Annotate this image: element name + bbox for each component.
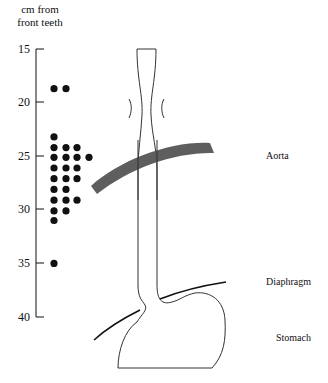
lesion-dot [62, 164, 69, 171]
lesion-dot [73, 144, 80, 151]
esophagus-diagram [0, 0, 328, 383]
lesion-dot [50, 186, 57, 193]
lesion-dot [50, 85, 57, 92]
lesion-dot [50, 175, 57, 182]
lesion-dot [50, 164, 57, 171]
lesion-dot [50, 154, 57, 161]
lesion-dot [73, 164, 80, 171]
lesion-dot [62, 175, 69, 182]
lesion-dot [73, 197, 80, 204]
lesion-dot [85, 154, 92, 161]
label-diaphragm: Diaphragm [266, 276, 311, 287]
lesion-dot [50, 217, 57, 224]
lesion-dot [50, 260, 57, 267]
lesion-dot [62, 186, 69, 193]
lesion-dot [62, 197, 69, 204]
lesion-dot [73, 175, 80, 182]
lesion-dot [50, 207, 57, 214]
label-aorta: Aorta [266, 150, 289, 161]
diaphragm-lines [94, 282, 226, 340]
y-axis [36, 49, 44, 317]
lesion-dot [62, 207, 69, 214]
esophagus-outline [118, 49, 225, 368]
lesion-dot [62, 154, 69, 161]
lesion-dot [62, 144, 69, 151]
lesion-dot [62, 85, 69, 92]
label-stomach: Stomach [276, 332, 311, 343]
lesion-dots [50, 85, 92, 267]
lesion-dot [50, 144, 57, 151]
lesion-dot [73, 154, 80, 161]
aorta-band [91, 143, 214, 194]
lesion-dot [50, 197, 57, 204]
lesion-dot [50, 133, 57, 140]
